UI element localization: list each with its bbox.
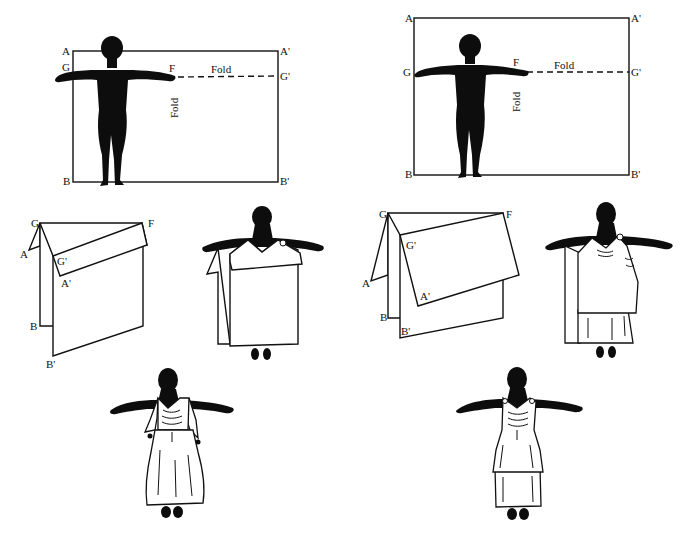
label-b: B — [405, 168, 412, 180]
figure-left-finished-dress — [110, 368, 234, 518]
label-g: G — [379, 208, 387, 220]
label-a-prime: A' — [280, 45, 290, 57]
fold-label-horizontal: Fold — [211, 63, 232, 75]
label-g: G — [31, 217, 39, 229]
fold-label-horizontal: Fold — [554, 59, 575, 71]
fold-label-vertical: Fold — [168, 97, 180, 118]
label-b-prime: B' — [401, 325, 410, 337]
label-b: B — [380, 311, 387, 323]
figure-right-finished-dress — [456, 367, 583, 520]
label-g-prime: G' — [57, 255, 67, 267]
label-a-prime: A' — [420, 290, 430, 302]
bodice — [158, 398, 189, 430]
label-g-prime: G' — [280, 70, 290, 82]
label-f: F — [513, 56, 519, 68]
drape-back — [207, 248, 230, 344]
label-a-prime: A' — [61, 277, 71, 289]
label-g: G — [403, 66, 411, 78]
flap-a — [371, 213, 388, 281]
label-a: A — [62, 45, 70, 57]
fold-line-horizontal — [178, 76, 278, 77]
label-g-prime: G' — [406, 239, 416, 251]
label-g: G — [62, 61, 70, 73]
label-a: A — [20, 248, 28, 260]
panel-left-top: A A' G G' F B B' Fold Fold — [55, 36, 290, 187]
label-b-prime: B' — [631, 168, 640, 180]
label-b-prime: B' — [46, 358, 55, 370]
panel-left-mid-fold: G F A G' A' B B' — [20, 217, 154, 370]
figure-left-draped — [202, 206, 324, 360]
label-a: A — [362, 277, 370, 289]
figure-right-draped — [545, 202, 672, 358]
label-b-prime: B' — [280, 175, 289, 187]
label-b: B — [30, 320, 37, 332]
panel-right-mid-fold: G F G' A A' B B' — [362, 208, 519, 338]
label-a: A — [405, 12, 413, 24]
dress-folding-diagram: A A' G G' F B B' Fold Fold A A' G G' F B… — [0, 0, 690, 538]
skirt-lower — [495, 468, 541, 507]
label-f: F — [506, 208, 512, 220]
label-f: F — [148, 217, 154, 229]
label-a-prime: A' — [631, 12, 641, 24]
bodice-overlay — [578, 236, 638, 313]
label-g-prime: G' — [631, 66, 641, 78]
panel-right-top: A A' G G' F B B' Fold Fold — [403, 12, 641, 180]
label-f: F — [169, 62, 175, 74]
fold-label-vertical: Fold — [510, 91, 522, 112]
label-b: B — [63, 175, 70, 187]
